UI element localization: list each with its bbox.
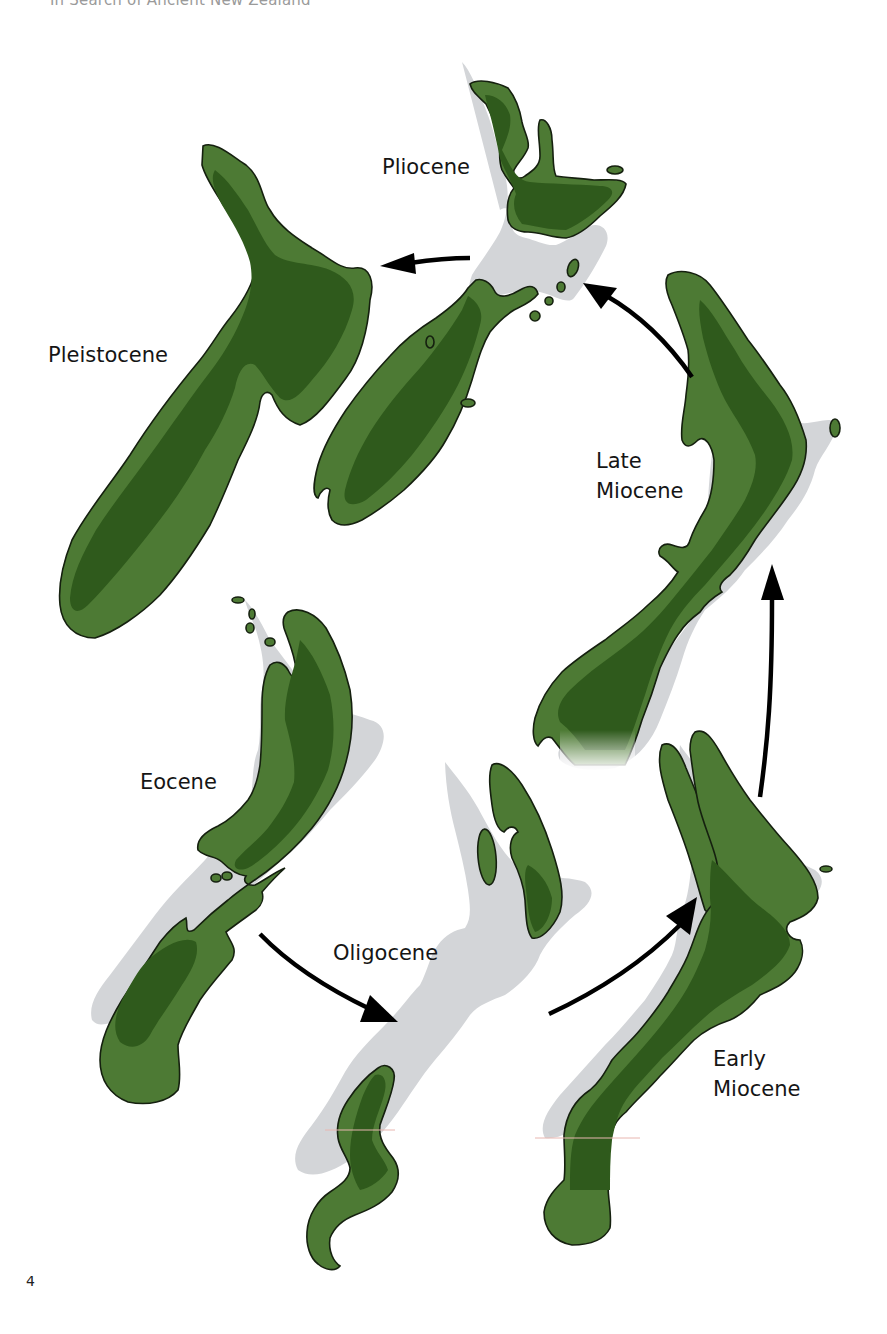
arrowhead-icon <box>360 995 398 1022</box>
eocene-islet <box>211 874 221 882</box>
pliocene-islet <box>557 282 565 292</box>
page-number: 4 <box>26 1273 35 1289</box>
late-miocene-fade <box>560 730 635 770</box>
pliocene-islet <box>426 336 434 348</box>
arrowhead-icon <box>380 253 416 274</box>
pliocene-islet <box>461 399 475 407</box>
label-late-miocene: Late Miocene <box>596 446 684 506</box>
label-pliocene: Pliocene <box>382 152 470 182</box>
eocene-islet <box>249 609 255 619</box>
label-oligocene-text: Oligocene <box>333 938 438 968</box>
map-late-miocene <box>533 272 840 770</box>
map-early-miocene <box>535 731 832 1245</box>
label-early-miocene: Early Miocene <box>713 1044 801 1104</box>
map-oligocene <box>295 762 591 1270</box>
label-oligocene: Oligocene <box>333 938 438 968</box>
label-early-miocene-line2: Miocene <box>713 1074 801 1104</box>
arrow-early-miocene-to-late-miocene <box>760 564 784 797</box>
label-late-miocene-line1: Late <box>596 446 684 476</box>
label-pliocene-text: Pliocene <box>382 152 470 182</box>
pliocene-islet <box>607 166 623 174</box>
early-miocene-islet <box>820 866 832 872</box>
label-early-miocene-line1: Early <box>713 1044 801 1074</box>
arrowhead-icon <box>583 283 617 309</box>
paleogeography-diagram <box>0 0 887 1334</box>
pliocene-islet <box>530 311 540 321</box>
eocene-islet <box>232 597 244 603</box>
label-pleistocene-text: Pleistocene <box>48 340 168 370</box>
arrowhead-icon <box>761 564 784 600</box>
late-miocene-islet <box>830 419 840 437</box>
arrow-pliocene-to-pleistocene <box>380 253 470 274</box>
label-pleistocene: Pleistocene <box>48 340 168 370</box>
eocene-islet <box>265 638 275 646</box>
map-pleistocene <box>60 145 372 638</box>
eocene-islet <box>222 872 232 880</box>
oligocene-modern-outline <box>295 762 591 1175</box>
pliocene-islet <box>545 297 553 305</box>
map-eocene <box>91 597 384 1104</box>
label-late-miocene-line2: Miocene <box>596 476 684 506</box>
label-eocene: Eocene <box>140 767 217 797</box>
label-eocene-text: Eocene <box>140 767 217 797</box>
eocene-islet <box>246 623 254 633</box>
